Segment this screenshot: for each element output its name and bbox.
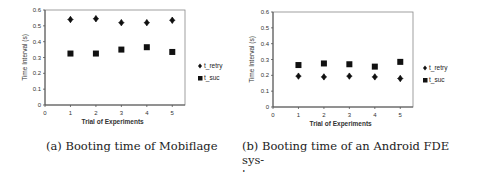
x-tick-label: 0 (43, 110, 47, 116)
t_suc-point (372, 64, 378, 70)
t_suc-point (67, 51, 73, 57)
legend-label: t_suc (429, 76, 445, 84)
y-axis-label: Time Interval (s) (248, 36, 256, 83)
t_retry-point (397, 75, 403, 81)
t_retry-point (93, 16, 99, 22)
legend-diamond-icon (423, 66, 427, 71)
t_suc-point (321, 60, 327, 66)
x-tick-label: 1 (69, 110, 73, 116)
y-tick-label: 0 (38, 102, 42, 108)
legend-label: t_suc (204, 74, 220, 82)
caption-a: (a) Booting time of Mobiflage (46, 139, 217, 153)
figure-a: 00.10.20.30.40.50.6012345Trial of Experi… (0, 0, 242, 172)
y-tick-label: 0.2 (33, 70, 42, 76)
caption-b-line-1: (b) Booting time of an Android FDE sys- (242, 139, 472, 167)
legend-diamond-icon (198, 64, 202, 69)
y-tick-label: 0 (266, 104, 270, 110)
legend-item-t_retry: t_retry (423, 64, 448, 72)
y-tick-label: 0.6 (261, 9, 270, 15)
y-tick-label: 0.3 (33, 55, 42, 61)
y-tick-label: 0.6 (33, 7, 42, 13)
caption-b-line-2: tem (242, 167, 472, 172)
t_suc-point (169, 49, 175, 55)
y-tick-label: 0.4 (261, 41, 270, 47)
y-tick-label: 0.1 (261, 88, 270, 94)
caption-b: (b) Booting time of an Android FDE sys- … (242, 139, 472, 172)
t_retry-point (118, 19, 124, 25)
figure-b: 00.10.20.30.40.50.6012345Trial of Experi… (242, 0, 484, 172)
t_suc-point (93, 51, 99, 57)
legend-label: t_retry (429, 64, 448, 72)
y-tick-label: 0.2 (261, 72, 270, 78)
t_suc-point (144, 44, 150, 50)
plot-frame (45, 10, 185, 105)
t_retry-point (169, 17, 175, 23)
x-tick-label: 4 (145, 110, 149, 116)
t_suc-point (397, 59, 403, 65)
scatter-chart-android-fde: 00.10.20.30.40.50.6012345Trial of Experi… (242, 0, 484, 140)
y-axis-label: Time Interval (s) (21, 34, 29, 81)
legend-item-t_retry: t_retry (198, 62, 223, 70)
x-tick-label: 4 (373, 112, 377, 118)
t_retry-point (144, 19, 150, 25)
y-tick-label: 0.5 (261, 25, 270, 31)
x-tick-label: 2 (322, 112, 326, 118)
t_retry-point (295, 73, 301, 79)
x-tick-label: 3 (348, 112, 352, 118)
x-tick-label: 1 (297, 112, 301, 118)
legend-square-icon (423, 78, 428, 83)
t_suc-point (346, 61, 352, 67)
legend-square-icon (198, 76, 203, 81)
t_retry-point (372, 74, 378, 80)
legend-item-t_suc: t_suc (198, 74, 220, 82)
y-tick-label: 0.5 (33, 23, 42, 29)
scatter-chart-mobiflage: 00.10.20.30.40.50.6012345Trial of Experi… (0, 0, 242, 140)
y-tick-label: 0.3 (261, 57, 270, 63)
t_suc-point (118, 47, 124, 53)
x-tick-label: 5 (171, 110, 175, 116)
x-tick-label: 5 (399, 112, 403, 118)
plot-frame (273, 12, 413, 107)
t_suc-point (295, 62, 301, 68)
legend-item-t_suc: t_suc (423, 76, 445, 84)
t_retry-point (67, 16, 73, 22)
x-tick-label: 3 (120, 110, 124, 116)
t_retry-point (346, 73, 352, 79)
y-tick-label: 0.4 (33, 39, 42, 45)
y-tick-label: 0.1 (33, 86, 42, 92)
x-axis-label: Trial of Experiments (310, 120, 373, 128)
x-tick-label: 2 (94, 110, 98, 116)
t_retry-point (321, 74, 327, 80)
legend-label: t_retry (204, 62, 223, 70)
x-tick-label: 0 (271, 112, 275, 118)
x-axis-label: Trial of Experiments (82, 118, 145, 126)
